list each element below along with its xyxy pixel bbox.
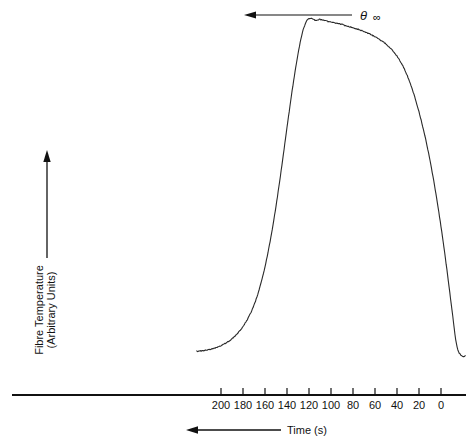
x-axis-tick-label: 80 <box>347 399 359 411</box>
x-axis-tick-label: 0 <box>438 399 444 411</box>
x-axis-tick-label: 40 <box>391 399 403 411</box>
x-axis-tick-label: 160 <box>256 399 274 411</box>
y-axis-title-line-2: (Arbitrary Units) <box>45 271 57 348</box>
x-axis-tick-label: 100 <box>322 399 340 411</box>
x-axis-title-group: Time (s) <box>186 424 327 436</box>
infinity-symbol: ∞ <box>373 11 381 23</box>
theta-annotation-arrow-head <box>244 11 256 18</box>
x-axis-tick-labels: 200180160140120100806040200 <box>212 399 444 411</box>
data-series-group <box>197 18 465 356</box>
y-axis-title-group: Fibre Temperature (Arbitrary Units) <box>33 150 57 355</box>
x-axis-tick-label: 200 <box>212 399 230 411</box>
x-axis-tick-label: 60 <box>369 399 381 411</box>
theta-symbol: θ <box>360 8 367 23</box>
x-axis-tick-label: 180 <box>234 399 252 411</box>
x-axis-ticks <box>221 388 441 395</box>
x-axis-tick-label: 20 <box>413 399 425 411</box>
chart-figure: 200180160140120100806040200 Time (s) Fib… <box>0 0 474 444</box>
chart-canvas: 200180160140120100806040200 Time (s) Fib… <box>0 0 474 444</box>
x-axis-title: Time (s) <box>287 424 327 436</box>
y-axis-arrow-head <box>43 150 50 162</box>
x-axis-tick-label: 120 <box>300 399 318 411</box>
y-axis-title-line-1: Fibre Temperature <box>33 265 45 355</box>
theta-infinity-annotation: θ ∞ <box>244 8 381 23</box>
time-axis-arrow-head <box>186 426 198 434</box>
fibre-temperature-trace <box>197 18 465 356</box>
x-axis-tick-label: 140 <box>278 399 296 411</box>
